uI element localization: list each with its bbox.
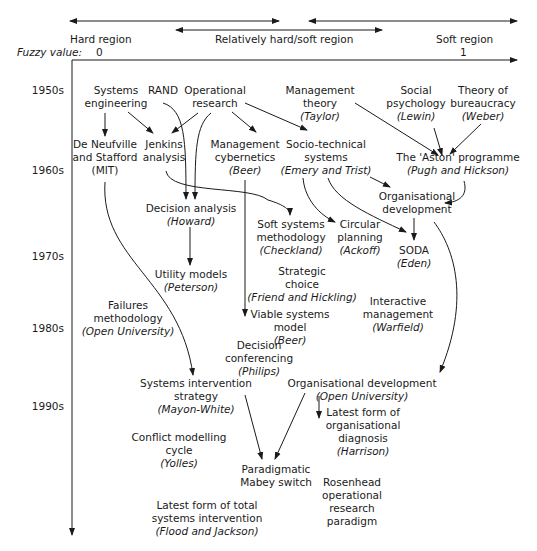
node-organisational-development-1: Organisationaldevelopment (379, 190, 455, 216)
node-socio-technical: Socio-technicalsystems(Emery and Trist) (281, 138, 372, 177)
node-paradigmatic-mabey-switch: ParadigmaticMabey switch (240, 463, 312, 489)
node-soda: SODA(Eden) (397, 244, 432, 270)
decade-1990s: 1990s (24, 400, 64, 413)
node-soft-systems: Soft systemsmethodology(Checkland) (256, 218, 325, 257)
node-theory-bureaucracy: Theory ofbureaucracy(Weber) (450, 84, 515, 123)
node-interactive-management: Interactivemanagement(Warfield) (363, 295, 433, 334)
soft-region-label: Soft region (436, 33, 493, 46)
relative-region-label: Relatively hard/soft region (215, 33, 353, 46)
node-conflict-modelling: Conflict modellingcycle(Yolles) (131, 431, 226, 470)
decade-1960s: 1960s (24, 164, 64, 177)
fuzzy-value-label: Fuzzy value: (17, 46, 82, 59)
node-latest-total-systems-intervention: Latest form of totalsystems intervention… (152, 499, 263, 538)
node-rosenhead: Rosenheadoperationalresearchparadigm (322, 476, 382, 528)
node-circular-planning: Circularplanning(Ackoff) (337, 218, 383, 257)
node-utility-models: Utility models(Peterson) (155, 268, 227, 294)
decade-1950s: 1950s (24, 84, 64, 97)
node-jenkins: Jenkinsanalysis (143, 138, 186, 164)
node-latest-organisational-diagnosis: Latest form oforganisationaldiagnosis(Ha… (326, 406, 401, 458)
node-operational-research: Operationalresearch (184, 84, 246, 110)
node-management-cybernetics: Managementcybernetics(Beer) (210, 138, 279, 177)
node-management-theory: Managementtheory(Taylor) (285, 84, 354, 123)
node-decision-conferencing: Decisionconferencing(Philips) (225, 339, 293, 378)
node-rand: RAND (148, 84, 178, 97)
node-organisational-development-2: Organisational development(Open Universi… (287, 377, 436, 403)
decade-1970s: 1970s (24, 250, 64, 263)
fuzzy-min: 0 (96, 46, 103, 59)
node-systems-intervention: Systems interventionstrategy(Mayon-White… (140, 377, 252, 416)
node-decision-analysis: Decision analysis(Howard) (146, 202, 237, 228)
node-aston-programme: The 'Aston' programme(Pugh and Hickson) (396, 151, 519, 177)
node-social-psychology: Socialpsychology(Lewin) (386, 84, 445, 123)
node-de-neufville: De Neufvilleand Stafford(MIT) (73, 138, 138, 177)
node-systems-engineering: Systemsengineering (85, 84, 148, 110)
node-failures-methodology: Failuresmethodology(Open University) (82, 299, 175, 338)
fuzzy-max: 1 (460, 46, 467, 59)
node-strategic-choice: Strategicchoice(Friend and Hickling) (247, 265, 357, 304)
decade-1980s: 1980s (24, 322, 64, 335)
hard-region-label: Hard region (70, 33, 132, 46)
